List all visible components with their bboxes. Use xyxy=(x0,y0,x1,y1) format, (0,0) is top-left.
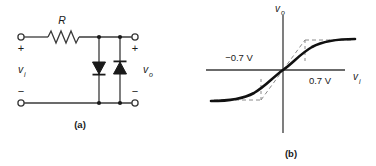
diode-right-triangle xyxy=(114,62,127,74)
input-minus-sign: − xyxy=(18,85,24,97)
caption-panel-b: (b) xyxy=(285,148,297,159)
output-plus-sign: + xyxy=(132,42,138,54)
junction-dot-left-bottom xyxy=(97,101,101,105)
resistor-symbol xyxy=(48,31,79,43)
x-axis-subscript: i xyxy=(359,78,361,85)
junction-dot-right-bottom xyxy=(118,101,122,105)
terminal-output-top xyxy=(132,34,138,40)
junction-dot-right-top xyxy=(118,35,122,39)
output-voltage-label: v o xyxy=(143,63,153,78)
output-voltage-subscript: o xyxy=(149,71,153,78)
positive-threshold-label: 0.7 V xyxy=(309,75,332,86)
junction-dot-left-top xyxy=(97,35,101,39)
terminal-input-top xyxy=(18,34,24,40)
terminal-input-bottom xyxy=(18,100,24,106)
caption-panel-a: (a) xyxy=(74,119,86,130)
resistor-label: R xyxy=(58,14,66,26)
panel-b-graph: v o v i −0.7 V 0.7 V (b) xyxy=(206,3,361,159)
y-axis-label: v o xyxy=(275,3,285,16)
panel-a-circuit: R + − + − v i v o (a) xyxy=(18,14,153,130)
diode-left-triangle xyxy=(93,62,106,74)
input-voltage-label: v i xyxy=(18,63,26,78)
y-axis-subscript: o xyxy=(281,9,285,16)
x-axis-label: v i xyxy=(353,71,361,85)
negative-threshold-label: −0.7 V xyxy=(225,52,253,63)
figure-svg: R + − + − v i v o (a) xyxy=(0,0,376,166)
figure-root: R + − + − v i v o (a) xyxy=(0,0,376,166)
input-voltage-subscript: i xyxy=(24,71,26,78)
terminal-output-bottom xyxy=(132,100,138,106)
output-minus-sign: − xyxy=(132,85,138,97)
input-plus-sign: + xyxy=(18,42,24,54)
